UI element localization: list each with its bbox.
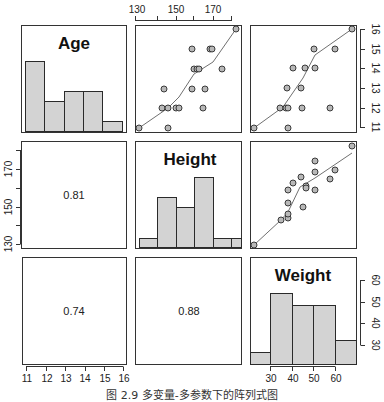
figure-caption: 图 2.9 多变量-多参数下的阵列式图 [0,386,384,402]
tick-label: 16 [370,23,381,35]
panel-frame [251,26,357,133]
tick-label: 11 [22,373,33,384]
tick-label: 14 [370,62,381,74]
left-axis-height: 170 150 130 [3,150,21,252]
histogram-bar [195,178,214,248]
tick-label: 40 [370,317,381,329]
tick-label: 15 [99,373,111,384]
diagonal-label-weight: Weight [275,266,332,285]
panel-correlation-weight-height: 0.88 [136,258,242,365]
smooth-line [139,29,236,128]
histogram-bar [271,294,293,365]
tick-label: 30 [370,339,381,351]
diagonal-label-height: Height [164,150,217,169]
tick-label: 60 [330,373,342,384]
histogram-bar [336,341,357,365]
tick-label: 60 [370,274,381,286]
histogram-bar [45,102,65,132]
tick-label: 50 [308,373,320,384]
tick-label: 130 [129,4,146,15]
tick-label: 30 [265,373,277,384]
tick-label: 13 [60,373,72,384]
tick-label: 13 [370,82,381,94]
panel-correlation-height-age: 0.81 170 150 130 [3,142,127,253]
histogram-bar [214,239,232,248]
histogram-bar [158,198,177,248]
histogram-bar [103,122,123,132]
panel-height-vs-age-scatter: 130 150 170 [129,4,242,133]
correlation-value: 0.81 [63,189,84,201]
histogram-bar [26,62,45,132]
panel-height-histogram: Height [136,142,242,249]
histogram-bar [177,208,195,248]
data-points [251,143,355,248]
right-axis-weight: 60 50 40 30 [361,274,382,351]
histogram-bar [293,306,314,365]
panel-frame [251,142,357,249]
panel-weight-vs-age-scatter: 16 15 14 13 12 11 [251,23,382,132]
tick-label: 170 [3,160,14,177]
tick-label: 12 [41,373,53,384]
correlation-value: 0.88 [178,305,199,317]
right-axis-age: 16 15 14 13 12 11 [361,23,382,132]
tick-label: 50 [370,296,381,308]
histogram-bar [232,239,242,248]
tick-label: 40 [287,373,299,384]
tick-label: 15 [370,43,381,55]
panel-weight-histogram: Weight 30 40 50 60 60 50 40 30 [251,258,382,385]
tick-label: 170 [205,4,222,15]
smooth-line [254,153,352,245]
tick-label: 150 [168,4,185,15]
panel-frame [136,26,242,133]
panel-age-histogram: Age [22,26,127,133]
diagonal-label-age: Age [58,34,90,53]
tick-label: 130 [3,235,14,252]
bottom-axis-age: 11 12 13 14 15 16 [22,367,130,385]
correlation-value: 0.74 [63,305,84,317]
histogram-bar [314,306,336,365]
tick-label: 11 [370,122,381,133]
bottom-axis-weight: 30 40 50 60 [265,367,342,385]
tick-label: 16 [118,373,130,384]
data-points [136,26,239,131]
tick-label: 14 [79,373,91,384]
panel-weight-vs-height-scatter [251,142,357,249]
histogram-bar [65,92,84,132]
histogram-bar [140,239,158,248]
panel-correlation-weight-age: 0.74 11 12 13 14 15 16 [22,258,130,385]
smooth-line [254,29,352,128]
histogram-bar [84,92,103,132]
tick-label: 12 [370,102,381,114]
tick-label: 150 [3,198,14,215]
top-axis-height: 130 150 170 [129,4,232,21]
histogram-bar [251,353,271,365]
